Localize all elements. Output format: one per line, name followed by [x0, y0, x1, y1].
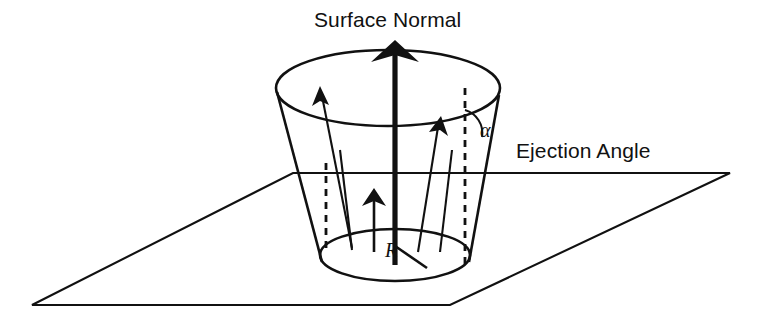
- ejection-arrows: [312, 86, 452, 252]
- radius-line: [395, 246, 427, 268]
- ejection-angle-label: Ejection Angle: [516, 140, 651, 161]
- surface-plane-outline: [32, 173, 730, 305]
- surface-normal-arrow: [371, 40, 419, 265]
- ejection-arrow-left: [312, 86, 352, 248]
- cone-ejection-diagram: [0, 0, 763, 324]
- alpha-angle-symbol: α: [480, 120, 491, 140]
- radius-symbol: R: [385, 240, 397, 260]
- surface-plane: [32, 173, 730, 305]
- diagram-canvas: Surface Normal Ejection Angle α R: [0, 0, 763, 324]
- ejection-arrow-right-head: [429, 116, 448, 136]
- ejection-arrow-center: [362, 188, 386, 252]
- surface-normal-label: Surface Normal: [314, 9, 461, 30]
- ejection-arrow-left-head: [312, 86, 329, 106]
